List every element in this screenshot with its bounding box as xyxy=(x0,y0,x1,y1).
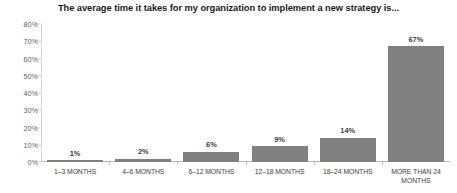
bar-group: 6% xyxy=(177,24,245,162)
y-axis-tick-label: 70% xyxy=(4,37,38,46)
bar-group: 9% xyxy=(246,24,314,162)
x-axis-tick-mark xyxy=(314,162,315,165)
bar-value-label: 14% xyxy=(314,126,382,135)
bar xyxy=(320,138,376,162)
y-axis-tick-label: 40% xyxy=(4,89,38,98)
bar xyxy=(252,146,308,162)
bar-value-label: 1% xyxy=(41,149,109,158)
y-axis-tick-label: 10% xyxy=(4,140,38,149)
bar-group: 2% xyxy=(109,24,177,162)
x-axis-tick-mark xyxy=(246,162,247,165)
bar-value-label: 9% xyxy=(246,135,314,144)
bar-value-label: 6% xyxy=(177,140,245,149)
x-axis: 1–3 MONTHS4–6 MONTHS6–12 MONTHS12–18 MON… xyxy=(41,167,450,193)
y-axis-tick-label: 0% xyxy=(4,158,38,167)
y-axis-tick-label: 80% xyxy=(4,20,38,29)
x-axis-category-label: 18–24 MONTHS xyxy=(314,167,382,176)
bar xyxy=(183,152,239,162)
bar-value-label: 2% xyxy=(109,147,177,156)
x-axis-tick-mark xyxy=(109,162,110,165)
x-axis-tick-mark xyxy=(177,162,178,165)
bar-group: 1% xyxy=(41,24,109,162)
y-axis-tick-label: 50% xyxy=(4,71,38,80)
bar-value-label: 67% xyxy=(382,35,450,44)
x-axis-category-label: 1–3 MONTHS xyxy=(41,167,109,176)
y-axis-tick-label: 60% xyxy=(4,54,38,63)
bar-group: 14% xyxy=(314,24,382,162)
bar xyxy=(115,159,171,162)
plot-area: 1%2%6%9%14%67% xyxy=(41,24,450,162)
chart-title: The average time it takes for my organiz… xyxy=(0,3,457,13)
y-axis-tick-label: 20% xyxy=(4,123,38,132)
bar xyxy=(47,160,103,162)
x-axis-category-label: 6–12 MONTHS xyxy=(177,167,245,176)
x-axis-tick-mark xyxy=(382,162,383,165)
x-axis-category-label: MORE THAN 24 MONTHS xyxy=(382,167,450,185)
bar-chart: The average time it takes for my organiz… xyxy=(0,0,457,193)
y-axis-tick-label: 30% xyxy=(4,106,38,115)
bar xyxy=(388,46,444,162)
x-axis-category-label: 4–6 MONTHS xyxy=(109,167,177,176)
bar-group: 67% xyxy=(382,24,450,162)
x-axis-category-label: 12–18 MONTHS xyxy=(246,167,314,176)
y-axis: 0%10%20%30%40%50%60%70%80% xyxy=(0,0,38,193)
